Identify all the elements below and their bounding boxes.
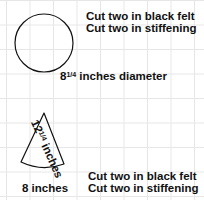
circle-instruction-1: Cut two in black felt (86, 10, 195, 22)
circle-pattern (15, 14, 73, 72)
diameter-suffix: inches diameter (76, 70, 167, 82)
circle-instruction-2: Cut two in stiffening (86, 22, 197, 34)
cone-instruction-1: Cut two in black felt (88, 170, 197, 182)
circle-diameter-label: 81/4 inches diameter (60, 70, 167, 82)
cone-base-label: 8 inches (22, 182, 68, 194)
diameter-fraction: 1/4 (66, 71, 76, 78)
cone-instruction-2: Cut two in stiffening (88, 182, 199, 194)
